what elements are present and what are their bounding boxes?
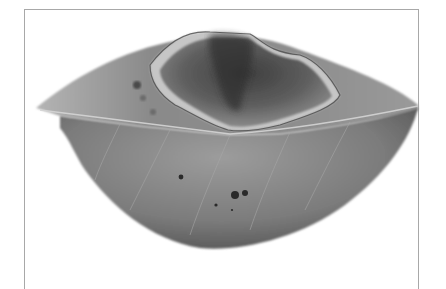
leaf-photo: [0, 0, 446, 277]
